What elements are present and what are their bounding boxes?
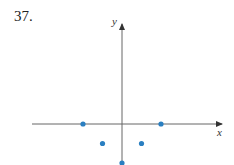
data-point [119,160,124,165]
x-axis-label: x [216,126,222,138]
y-axis-label: y [111,15,117,27]
data-point [100,141,105,146]
scatter-plot: x y [0,0,234,165]
data-point [158,121,163,126]
data-point [80,121,85,126]
data-point [139,141,144,146]
